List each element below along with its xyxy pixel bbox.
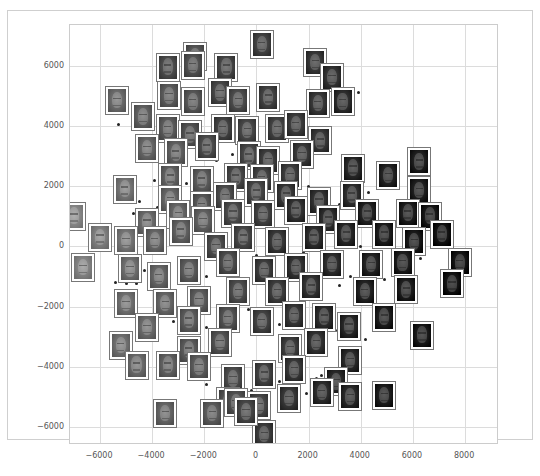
face-image [362, 253, 380, 276]
face-thumbnail [105, 86, 129, 115]
face-thumbnail [177, 306, 201, 335]
face-thumbnail [306, 89, 330, 118]
face-thumbnail [71, 253, 95, 282]
data-point [305, 392, 308, 395]
x-tick-label: 6000 [402, 451, 422, 460]
face-thumbnail [208, 328, 232, 357]
face-image [253, 33, 271, 56]
face-thumbnail [299, 272, 323, 301]
face-thumbnail [337, 312, 361, 341]
face-thumbnail [394, 275, 418, 304]
face-image [203, 402, 221, 425]
face-thumbnail [226, 86, 250, 115]
face-thumbnail [302, 223, 326, 252]
data-point [364, 338, 367, 341]
face-thumbnail [131, 102, 155, 131]
face-thumbnail [216, 248, 240, 277]
face-image [184, 90, 202, 113]
y-gridline [70, 427, 497, 428]
face-image [69, 205, 83, 228]
face-thumbnail [177, 256, 201, 285]
face-image [443, 272, 461, 295]
y-tick-label: 2000 [44, 181, 64, 190]
face-image [211, 331, 229, 354]
y-tick-label: 4000 [44, 120, 64, 129]
face-thumbnail [114, 226, 138, 255]
face-thumbnail [156, 351, 180, 380]
face-image [117, 229, 135, 252]
data-point [278, 380, 281, 383]
face-image [253, 310, 271, 333]
data-point [419, 257, 422, 260]
data-point [367, 191, 370, 194]
face-image [159, 354, 177, 377]
data-point [278, 323, 281, 326]
face-image [287, 199, 305, 222]
face-image [340, 315, 358, 338]
y-tick-label: −2000 [37, 301, 64, 310]
face-image [138, 316, 156, 339]
face-image [309, 92, 327, 115]
face-image [224, 202, 242, 225]
face-image [91, 226, 109, 249]
face-thumbnail [147, 262, 171, 291]
face-image [128, 354, 146, 377]
data-point [359, 245, 362, 248]
face-image [323, 66, 341, 89]
x-tick-label: −6000 [85, 451, 112, 460]
face-image [160, 84, 178, 107]
face-thumbnail [187, 352, 211, 381]
data-point [205, 383, 208, 386]
face-thumbnail [250, 30, 274, 59]
face-thumbnail [135, 313, 159, 342]
data-point [205, 275, 208, 278]
face-thumbnail [338, 382, 362, 411]
face-thumbnail [181, 87, 205, 116]
face-thumbnail [410, 321, 434, 350]
plot-area [69, 24, 498, 444]
face-image [334, 90, 352, 113]
face-image [280, 387, 298, 410]
face-image [229, 280, 247, 303]
y-gridline [70, 66, 497, 67]
face-image [159, 56, 177, 79]
face-image [156, 292, 174, 315]
face-thumbnail [181, 51, 205, 80]
x-tick-label: 4000 [350, 451, 370, 460]
face-image [313, 381, 331, 404]
face-image [134, 105, 152, 128]
face-image [156, 402, 174, 425]
face-image [184, 54, 202, 77]
face-thumbnail [250, 307, 274, 336]
face-image [305, 226, 323, 249]
face-image [146, 229, 164, 252]
face-thumbnail [157, 81, 181, 110]
face-image [193, 169, 211, 192]
face-image [150, 265, 168, 288]
data-point [357, 91, 360, 94]
face-image [219, 251, 237, 274]
data-point [231, 153, 234, 156]
face-thumbnail [135, 134, 159, 163]
face-image [159, 117, 177, 140]
face-image [307, 331, 325, 354]
face-image [198, 135, 216, 158]
face-image [323, 253, 341, 276]
face-thumbnail [391, 248, 415, 277]
data-point [153, 179, 156, 182]
face-thumbnail [372, 381, 396, 410]
data-point [117, 123, 120, 126]
face-thumbnail [277, 384, 301, 413]
face-image [302, 275, 320, 298]
x-tick-label: 0 [253, 451, 258, 460]
x-tick-label: 2000 [297, 451, 317, 460]
face-image [413, 324, 431, 347]
face-thumbnail [334, 220, 358, 249]
face-thumbnail [169, 217, 193, 246]
face-thumbnail [341, 154, 365, 183]
face-image [285, 358, 303, 381]
face-image [121, 257, 139, 280]
face-image [337, 223, 355, 246]
face-image [375, 384, 393, 407]
face-thumbnail [69, 202, 86, 231]
